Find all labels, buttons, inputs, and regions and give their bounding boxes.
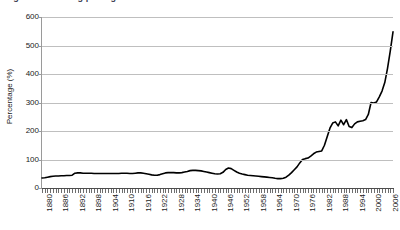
y-tick-label: 300 <box>14 99 39 107</box>
x-tick-label: 1892 <box>79 194 87 212</box>
x-tick-mark <box>324 189 325 193</box>
x-tick-mark <box>355 189 356 193</box>
x-tick-label: 2000 <box>375 194 383 212</box>
x-tick-mark <box>50 189 51 193</box>
x-tick-mark <box>111 189 112 193</box>
gridline <box>42 160 393 161</box>
x-tick-label: 1994 <box>359 194 367 212</box>
x-tick-mark <box>80 189 81 193</box>
x-tick-mark <box>215 189 216 193</box>
x-tick-mark <box>335 189 336 193</box>
gridline <box>42 74 393 75</box>
x-tick-mark <box>283 189 284 193</box>
x-tick-mark <box>286 189 287 193</box>
x-tick-mark <box>132 189 133 193</box>
x-tick-mark <box>237 189 238 193</box>
x-tick-mark <box>363 189 364 193</box>
x-tick-mark <box>267 189 268 193</box>
x-tick-mark <box>248 189 249 193</box>
x-tick-mark <box>176 189 177 193</box>
x-tick-mark <box>319 189 320 193</box>
x-tick-mark <box>239 189 240 193</box>
x-tick-mark <box>138 189 139 193</box>
x-tick-mark <box>56 189 57 193</box>
x-tick-label: 1982 <box>326 194 334 212</box>
x-tick-mark <box>53 189 54 193</box>
x-tick-mark <box>204 189 205 193</box>
x-tick-mark <box>366 189 367 193</box>
x-tick-label: 1922 <box>161 194 169 212</box>
x-tick-mark <box>174 189 175 193</box>
x-tick-label: 1886 <box>62 194 70 212</box>
x-tick-mark <box>218 189 219 193</box>
x-tick-mark <box>388 189 389 193</box>
x-tick-label: 1880 <box>46 194 54 212</box>
x-tick-mark <box>47 189 48 193</box>
x-tick-mark <box>116 189 117 193</box>
gridline <box>42 46 393 47</box>
x-tick-mark <box>256 189 257 193</box>
x-tick-mark <box>250 189 251 193</box>
x-tick-label: 1946 <box>227 194 235 212</box>
x-tick-mark <box>157 189 158 193</box>
x-tick-mark <box>333 189 334 193</box>
x-tick-mark <box>327 189 328 193</box>
chart-title-cropped: Figure 1: Housing price growth index <box>0 0 398 3</box>
x-tick-mark <box>338 189 339 193</box>
x-tick-mark <box>113 189 114 193</box>
x-tick-mark <box>374 189 375 193</box>
x-tick-mark <box>135 189 136 193</box>
x-tick-mark <box>196 189 197 193</box>
x-tick-mark <box>94 189 95 193</box>
y-tick-label: 400 <box>14 70 39 78</box>
x-tick-mark <box>130 189 131 193</box>
x-tick-mark <box>163 189 164 193</box>
x-tick-mark <box>58 189 59 193</box>
x-tick-mark <box>349 189 350 193</box>
x-tick-mark <box>64 189 65 193</box>
y-tick-mark <box>39 160 42 161</box>
x-tick-mark <box>385 189 386 193</box>
x-tick-mark <box>201 189 202 193</box>
x-tick-mark <box>69 189 70 193</box>
x-tick-mark <box>86 189 87 193</box>
x-tick-mark <box>330 189 331 193</box>
x-tick-mark <box>75 189 76 193</box>
y-tick-mark <box>39 17 42 18</box>
x-tick-mark <box>165 189 166 193</box>
x-tick-mark <box>122 189 123 193</box>
x-tick-mark <box>344 189 345 193</box>
x-tick-mark <box>100 189 101 193</box>
x-tick-mark <box>245 189 246 193</box>
x-tick-mark <box>259 189 260 193</box>
chart-title-text: Figure 1: Housing price growth index <box>0 0 398 3</box>
x-tick-mark <box>379 189 380 193</box>
x-tick-mark <box>281 189 282 193</box>
x-tick-mark <box>179 189 180 193</box>
x-tick-mark <box>341 189 342 193</box>
x-tick-mark <box>78 189 79 193</box>
x-tick-mark <box>105 189 106 193</box>
x-tick-mark <box>226 189 227 193</box>
x-tick-mark <box>292 189 293 193</box>
x-tick-mark <box>311 189 312 193</box>
x-tick-mark <box>371 189 372 193</box>
x-tick-mark <box>352 189 353 193</box>
x-tick-mark <box>154 189 155 193</box>
x-tick-mark <box>72 189 73 193</box>
x-tick-mark <box>220 189 221 193</box>
x-tick-mark <box>209 189 210 193</box>
x-tick-mark <box>83 189 84 193</box>
x-tick-label: 1940 <box>211 194 219 212</box>
gridline <box>42 103 393 104</box>
x-tick-mark <box>97 189 98 193</box>
x-tick-mark <box>253 189 254 193</box>
x-tick-mark <box>368 189 369 193</box>
x-tick-mark <box>198 189 199 193</box>
x-tick-mark <box>152 189 153 193</box>
x-tick-mark <box>382 189 383 193</box>
x-tick-label: 1910 <box>128 194 136 212</box>
x-tick-label: 1952 <box>243 194 251 212</box>
x-tick-mark <box>393 189 394 193</box>
